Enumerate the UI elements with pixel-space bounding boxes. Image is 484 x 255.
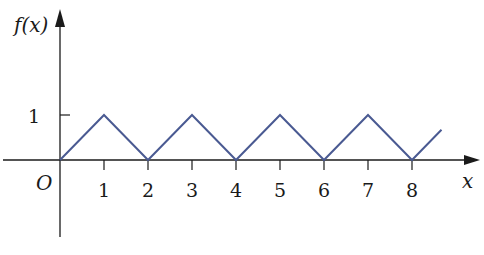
x-tick-labels: 12345678 bbox=[98, 179, 418, 201]
x-tick-label-7: 7 bbox=[362, 179, 374, 201]
x-tick-label-8: 8 bbox=[406, 179, 418, 201]
x-axis-arrow-icon bbox=[464, 155, 480, 165]
x-tick-label-5: 5 bbox=[274, 179, 286, 201]
x-tick-label-1: 1 bbox=[98, 179, 110, 201]
x-ticks bbox=[104, 160, 412, 170]
y-axis-arrow-icon bbox=[55, 9, 65, 27]
y-axis-label: f(x) bbox=[12, 13, 48, 37]
y-tick-label-1: 1 bbox=[28, 105, 40, 127]
x-axis-label: x bbox=[462, 169, 473, 193]
x-tick-label-4: 4 bbox=[230, 179, 242, 201]
function-line bbox=[60, 115, 442, 160]
x-tick-label-6: 6 bbox=[318, 179, 330, 201]
origin-label: O bbox=[36, 171, 52, 195]
chart: f(x) 1 O x 12345678 bbox=[0, 0, 484, 255]
x-tick-label-3: 3 bbox=[186, 179, 198, 201]
x-tick-label-2: 2 bbox=[142, 179, 154, 201]
